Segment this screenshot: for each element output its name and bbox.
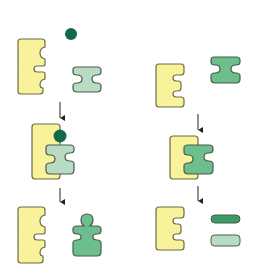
left-middle-cofactor	[54, 130, 67, 143]
left-top-substrate	[73, 67, 101, 92]
diagram-canvas: Enzyme-substrate interaction: with cofac…	[0, 0, 274, 280]
right-top-substrate	[211, 57, 240, 83]
left-top-cofactor	[65, 28, 77, 40]
left-bottom-enzyme	[18, 207, 45, 263]
right-bottom-enzyme	[156, 207, 184, 250]
right-top-enzyme	[156, 64, 184, 107]
diagram-svg	[0, 0, 274, 280]
left-top-enzyme	[18, 39, 45, 94]
right-bottom-product-dark-bar	[211, 215, 240, 223]
right-bottom-product-light-bar	[211, 235, 240, 246]
left-bottom-product	[73, 214, 101, 256]
